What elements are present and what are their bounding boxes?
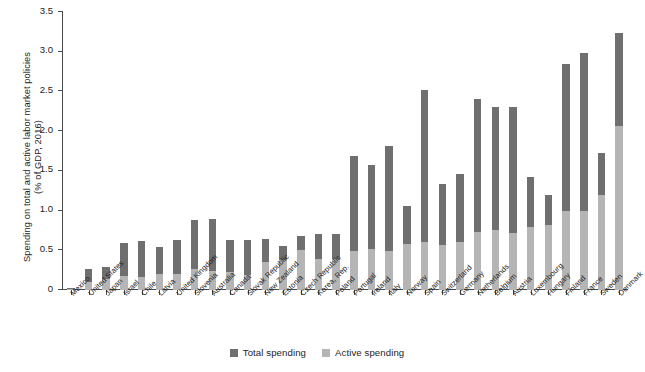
table-row <box>421 90 429 290</box>
table-row <box>562 64 570 290</box>
y-tick-label-5: 2.5 <box>40 84 53 95</box>
table-row <box>527 177 535 290</box>
y-tick-label-4: 2.0 <box>40 124 53 135</box>
table-row <box>615 33 623 290</box>
y-axis-title-line-1: Spending on total and active labor marke… <box>22 52 34 262</box>
y-tick-label-2: 1.0 <box>40 203 53 214</box>
chart-legend: Total spendingActive spending <box>0 347 634 358</box>
table-row <box>385 146 393 290</box>
legend-item-0[interactable]: Total spending <box>230 347 306 358</box>
table-row <box>580 53 588 290</box>
plot-area: 00.51.01.52.02.53.03.5 <box>62 12 628 290</box>
legend-label-1: Active spending <box>335 347 404 358</box>
bar-active-19 <box>403 244 411 290</box>
square-swatch-1 <box>322 349 330 357</box>
table-row <box>492 107 500 290</box>
table-row <box>350 156 358 290</box>
legend-label-0: Total spending <box>243 347 306 358</box>
bar-series-container <box>62 12 628 290</box>
table-row <box>509 107 517 290</box>
y-tick-label-3: 1.5 <box>40 163 53 174</box>
legend-item-1[interactable]: Active spending <box>322 347 404 358</box>
table-row <box>403 206 411 290</box>
y-tick-label-1: 0.5 <box>40 243 53 254</box>
table-row <box>598 153 606 290</box>
y-axis-title: Spending on total and active labor marke… <box>16 12 50 302</box>
square-swatch-0 <box>230 349 238 357</box>
y-tick-label-0: 0 <box>48 283 53 294</box>
y-tick-label-7: 3.5 <box>40 5 53 16</box>
table-row <box>439 184 447 290</box>
bar-active-31 <box>615 126 623 290</box>
table-row <box>474 99 482 290</box>
y-tick-label-6: 3.0 <box>40 44 53 55</box>
x-axis-tick-labels: MexicoUnited StatesJapanIsraelChileLatvi… <box>62 292 628 354</box>
